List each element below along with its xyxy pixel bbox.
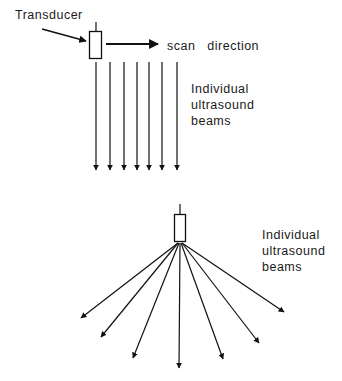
scan-direction-label: scan direction (167, 39, 259, 54)
ultrasound-scan-diagram: Transducer scan direction Individual ult… (0, 0, 342, 381)
sector-transducer (175, 204, 186, 242)
parallel-beams (96, 62, 177, 170)
transducer-label: Transducer (15, 8, 83, 23)
fan-beams (81, 243, 284, 368)
transducer-pointer-arrow (42, 29, 86, 41)
diagram-graphics (0, 0, 342, 381)
linear-transducer (90, 22, 102, 59)
